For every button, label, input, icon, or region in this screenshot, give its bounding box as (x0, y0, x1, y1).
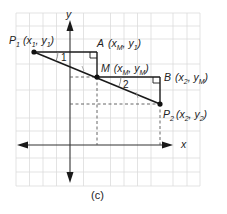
right-angle-marker-b (153, 77, 160, 83)
angle-2-arc (119, 77, 121, 86)
point-m (94, 74, 99, 79)
label-b: B(x2, yM) (164, 71, 208, 85)
angle-2-label: 2 (123, 79, 129, 90)
x-axis-label: x (180, 138, 187, 150)
y-axis-down-arrow-icon (67, 172, 74, 183)
label-p1: P1(x1, y1) (9, 34, 54, 48)
angle-1-label: 1 (61, 52, 67, 63)
point-p2 (157, 101, 162, 106)
label-p2: P2(x2, y2) (163, 108, 207, 122)
x-axis-right-arrow-icon (162, 142, 173, 149)
x-axis-left-arrow-icon (17, 142, 28, 149)
right-angle-marker-a (90, 52, 97, 58)
figure-caption: (c) (91, 189, 104, 201)
y-axis-label: y (65, 8, 72, 20)
point-p1 (31, 49, 36, 54)
y-axis-up-arrow-icon (67, 20, 74, 31)
midpoint-diagram: y x P1(x1, y1) A(xM, y1) M(xM, yM) B(x2,… (0, 0, 227, 214)
